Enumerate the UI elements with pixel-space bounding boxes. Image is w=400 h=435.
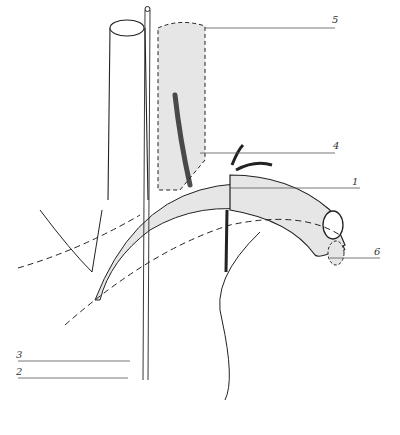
catheter-tip bbox=[145, 7, 150, 12]
label-3: 3 bbox=[16, 349, 22, 360]
label-6: 6 bbox=[374, 246, 380, 257]
dashed-boundary-1 bbox=[18, 215, 140, 268]
left-tube bbox=[108, 28, 148, 200]
vessel-6-cut bbox=[328, 241, 344, 265]
outline-left bbox=[40, 210, 102, 272]
label-1: 1 bbox=[352, 176, 358, 187]
label-2: 2 bbox=[16, 366, 22, 377]
left-tube-opening bbox=[110, 20, 144, 36]
catheter bbox=[143, 10, 150, 380]
branch-small-2 bbox=[236, 163, 272, 170]
branch-down bbox=[226, 210, 227, 272]
label-5: 5 bbox=[332, 14, 338, 25]
anatomical-diagram bbox=[0, 0, 400, 435]
label-4: 4 bbox=[333, 140, 339, 151]
branch-small-1 bbox=[232, 145, 243, 165]
vessel-6-opening bbox=[323, 211, 343, 239]
shaded-vessel-5 bbox=[158, 22, 205, 190]
